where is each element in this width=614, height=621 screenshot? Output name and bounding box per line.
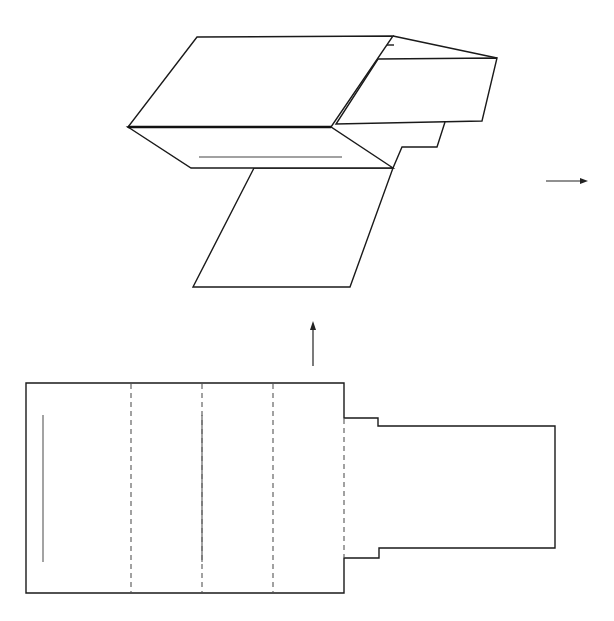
up-arrow [310, 321, 316, 366]
bottom-flap [193, 168, 393, 287]
arrow-up-icon [310, 321, 316, 330]
step-tab [393, 122, 445, 168]
front-panel [128, 127, 393, 168]
side-tab-top-diagonal [393, 36, 497, 58]
arrow-right-icon [580, 178, 588, 184]
folded-shape [128, 36, 497, 287]
right-arrow [546, 178, 588, 184]
flat-net [26, 383, 555, 593]
net-outline [26, 383, 555, 593]
folding-diagram [0, 0, 614, 621]
